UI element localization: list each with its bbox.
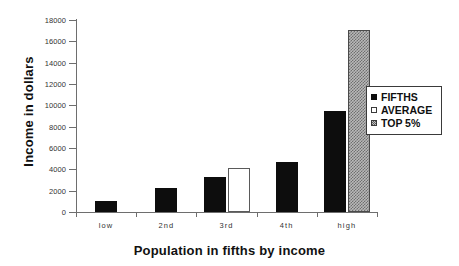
bar-chart: Income in dollars 0200040006000800010000… <box>0 0 459 266</box>
x-axis-tick-label: 3rd <box>197 221 257 230</box>
y-axis-tick-label: 14000 <box>28 59 66 68</box>
x-axis-tick <box>317 212 318 217</box>
legend-label-fifths: FIFTHS <box>381 92 418 103</box>
chart-legend: FIFTHS AVERAGE TOP 5% <box>366 86 442 135</box>
bar-fifths-3rd <box>204 177 226 212</box>
legend-item-top5: TOP 5% <box>371 117 437 129</box>
x-axis-tick <box>257 212 258 217</box>
bar-average-3rd <box>228 168 250 212</box>
y-axis-tick-label: 6000 <box>28 144 66 153</box>
bar-fifths-4th <box>276 162 298 212</box>
x-axis-tick <box>196 212 197 217</box>
y-axis-tick-label: 4000 <box>28 165 66 174</box>
y-axis-tick-label: 12000 <box>28 80 66 89</box>
y-axis-tick-label: 2000 <box>28 187 66 196</box>
legend-swatch-average-icon <box>371 107 377 113</box>
x-axis-tick <box>76 212 77 217</box>
bar-fifths-2nd <box>155 188 177 212</box>
y-axis-title: Income in dollars <box>21 22 36 202</box>
legend-label-top5: TOP 5% <box>381 118 420 129</box>
x-axis-tick-label: low <box>76 221 136 230</box>
x-axis-title: Population in fifths by income <box>0 243 459 258</box>
x-axis-tick <box>136 212 137 217</box>
y-axis-tick-label: 18000 <box>28 16 66 25</box>
legend-swatch-fifths-icon <box>371 94 377 100</box>
x-axis-line <box>76 212 378 213</box>
y-axis-tick-label: 16000 <box>28 37 66 46</box>
y-axis-tick-label: 8000 <box>28 123 66 132</box>
legend-label-average: AVERAGE <box>381 105 432 116</box>
bar-fifths-high <box>324 111 346 212</box>
x-axis-tick <box>377 212 378 217</box>
x-axis-tick-label: 4th <box>257 221 317 230</box>
legend-item-fifths: FIFTHS <box>371 91 437 103</box>
x-axis-tick-label: 2nd <box>136 221 196 230</box>
y-axis-tick-label: 0 <box>28 208 66 217</box>
legend-swatch-top5-icon <box>371 120 377 126</box>
plot-area <box>76 20 377 212</box>
bar-fifths-low <box>95 201 117 212</box>
y-axis-tick-label: 10000 <box>28 101 66 110</box>
legend-item-average: AVERAGE <box>371 104 437 116</box>
x-axis-tick-label: high <box>317 221 377 230</box>
